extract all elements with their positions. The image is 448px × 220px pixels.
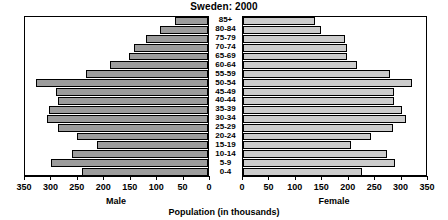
female-bar	[243, 106, 402, 114]
male-bar	[82, 168, 208, 176]
age-group-label: 70-74	[209, 43, 242, 51]
male-bar	[86, 70, 208, 78]
population-pyramid-chart: Sweden: 2000 85+80-8475-7970-7465-6960-6…	[0, 0, 448, 220]
age-group-label: 35-39	[209, 105, 242, 113]
female-bar	[243, 133, 371, 141]
age-group-label: 20-24	[209, 132, 242, 140]
male-bar	[49, 106, 208, 114]
age-group-label: 60-64	[209, 61, 242, 69]
female-bar	[243, 61, 357, 69]
age-group-label-column: 85+80-8475-7970-7465-6960-6455-5950-5445…	[209, 16, 242, 176]
female-axis-tick	[374, 176, 375, 180]
age-group-label: 0-4	[209, 168, 242, 176]
male-bar	[51, 159, 209, 167]
axis-caption: Population (in thousands)	[0, 207, 448, 217]
male-axis-tick	[24, 176, 25, 180]
male-axis-tick	[77, 176, 78, 180]
male-bar	[175, 17, 208, 25]
chart-title: Sweden: 2000	[0, 1, 448, 12]
female-axis-tick	[401, 176, 402, 180]
male-bar	[72, 150, 208, 158]
male-axis-tick-label: 0	[194, 182, 224, 192]
female-bar	[243, 79, 412, 87]
male-bar	[58, 97, 208, 105]
female-bar	[243, 53, 347, 61]
female-bar	[243, 168, 362, 176]
male-axis-line	[24, 176, 209, 177]
female-bar	[243, 44, 347, 52]
female-bar	[243, 88, 394, 96]
male-bar	[160, 26, 208, 34]
female-x-axis	[242, 176, 427, 181]
male-axis-tick	[183, 176, 184, 180]
male-axis-tick	[209, 176, 210, 180]
age-group-label: 30-34	[209, 114, 242, 122]
age-group-label: 80-84	[209, 25, 242, 33]
male-axis-tick	[103, 176, 104, 180]
female-bar	[243, 159, 395, 167]
age-group-label: 40-44	[209, 96, 242, 104]
female-axis-tick	[348, 176, 349, 180]
female-axis-line	[242, 176, 427, 177]
female-bar	[243, 70, 390, 78]
female-axis-label: Female	[274, 196, 394, 206]
female-axis-tick	[268, 176, 269, 180]
male-x-axis	[24, 176, 209, 181]
male-bar	[36, 79, 208, 87]
female-bar	[243, 150, 387, 158]
male-axis-tick	[130, 176, 131, 180]
age-group-label: 55-59	[209, 70, 242, 78]
male-bar	[77, 133, 208, 141]
female-axis-tick-label: 350	[412, 182, 442, 192]
male-bar	[56, 88, 208, 96]
age-group-label: 50-54	[209, 79, 242, 87]
male-bar	[47, 115, 208, 123]
age-group-label: 10-14	[209, 150, 242, 158]
age-group-label: 65-69	[209, 52, 242, 60]
age-group-label: 15-19	[209, 141, 242, 149]
male-axis-label: Male	[56, 196, 176, 206]
male-bars-panel	[24, 16, 209, 176]
female-bar	[243, 35, 345, 43]
female-bar	[243, 26, 321, 34]
female-bar	[243, 97, 394, 105]
female-bars-panel	[242, 16, 427, 176]
male-bar	[134, 44, 208, 52]
male-bar	[129, 53, 208, 61]
female-bar	[243, 115, 406, 123]
female-axis-tick	[427, 176, 428, 180]
female-axis-tick	[321, 176, 322, 180]
female-axis-tick	[242, 176, 243, 180]
male-bar	[58, 124, 208, 132]
age-group-label: 25-29	[209, 123, 242, 131]
male-bar	[97, 141, 208, 149]
age-group-label: 85+	[209, 16, 242, 24]
male-axis-tick	[156, 176, 157, 180]
female-bar	[243, 124, 393, 132]
age-group-label: 75-79	[209, 34, 242, 42]
age-group-label: 45-49	[209, 88, 242, 96]
age-group-label: 5-9	[209, 159, 242, 167]
female-bar	[243, 17, 315, 25]
female-axis-tick	[295, 176, 296, 180]
female-bar	[243, 141, 351, 149]
male-axis-tick	[50, 176, 51, 180]
male-bar	[146, 35, 208, 43]
male-bar	[110, 61, 208, 69]
